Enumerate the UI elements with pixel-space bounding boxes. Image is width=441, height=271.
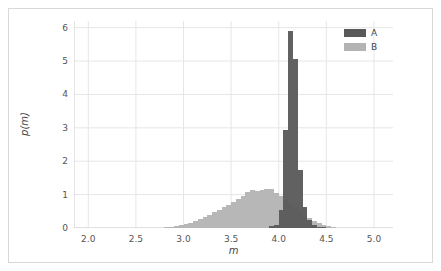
x-tick-label: 3.5	[224, 234, 238, 244]
y-axis-label: p(m)	[19, 112, 30, 136]
x-axis-label: m	[74, 245, 393, 256]
y-tick-label: 6	[48, 23, 68, 33]
y-tick-label: 2	[48, 156, 68, 166]
legend-label: B	[371, 43, 377, 52]
figure-canvas: p(m) m 0123456 2.02.53.03.54.04.55.0 AB	[0, 0, 441, 271]
x-tick-label: 2.5	[129, 234, 143, 244]
x-tick-label: 5.0	[367, 234, 381, 244]
x-tick-label: 2.0	[81, 234, 95, 244]
legend: AB	[341, 25, 389, 57]
y-tick-label: 4	[48, 89, 68, 99]
legend-item[interactable]: A	[344, 27, 386, 39]
y-tick-label: 3	[48, 123, 68, 133]
y-tick-label: 1	[48, 190, 68, 200]
y-tick-label: 5	[48, 56, 68, 66]
x-tick-label: 4.0	[272, 234, 286, 244]
x-tick-label: 4.5	[319, 234, 333, 244]
plot-wrapper: p(m) m 0123456 2.02.53.03.54.04.55.0 AB	[0, 0, 441, 271]
legend-swatch-a	[344, 29, 366, 37]
x-tick-label: 3.0	[176, 234, 190, 244]
legend-swatch-b	[344, 43, 366, 51]
y-tick-label: 0	[48, 223, 68, 233]
legend-label: A	[371, 29, 377, 38]
legend-item[interactable]: B	[344, 41, 386, 53]
